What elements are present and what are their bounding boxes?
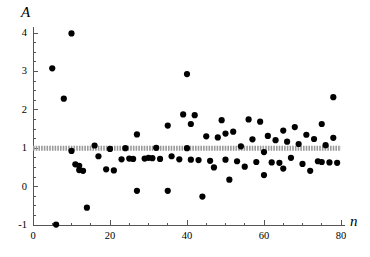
- data-point: [292, 124, 298, 130]
- y-tick-label: 4: [0, 28, 27, 39]
- data-point: [180, 111, 186, 117]
- data-point: [192, 112, 198, 118]
- data-point: [323, 142, 329, 148]
- data-point: [238, 143, 244, 149]
- data-point: [118, 156, 124, 162]
- data-point: [68, 30, 74, 36]
- data-point: [111, 167, 117, 173]
- data-point: [242, 164, 248, 170]
- data-point: [230, 129, 236, 135]
- data-point: [153, 145, 159, 151]
- y-axis-label: A: [21, 5, 30, 20]
- data-point: [165, 122, 171, 128]
- data-point: [53, 222, 59, 228]
- y-tick-label: 3: [0, 66, 27, 77]
- data-point: [265, 133, 271, 139]
- data-point: [326, 159, 332, 165]
- data-point: [149, 155, 155, 161]
- data-point: [319, 159, 325, 165]
- data-point: [157, 156, 163, 162]
- y-tick-label: 2: [0, 105, 27, 116]
- data-point: [276, 160, 282, 166]
- data-points: [49, 30, 340, 227]
- x-tick-label: 20: [96, 231, 124, 242]
- data-point: [68, 148, 74, 154]
- data-point: [249, 136, 255, 142]
- data-point: [272, 137, 278, 143]
- data-point: [207, 158, 213, 164]
- data-point: [234, 158, 240, 164]
- data-point: [288, 155, 294, 161]
- data-point: [84, 205, 90, 211]
- data-point: [303, 132, 309, 138]
- y-tick-label: -1: [0, 220, 27, 231]
- x-tick-label: 60: [250, 231, 278, 242]
- data-point: [330, 135, 336, 141]
- data-point: [219, 117, 225, 123]
- data-point: [215, 134, 221, 140]
- data-point: [280, 165, 286, 171]
- data-point: [226, 177, 232, 183]
- data-point: [169, 153, 175, 159]
- data-point: [103, 166, 109, 172]
- y-tick-label: 0: [0, 182, 27, 193]
- data-point: [299, 161, 305, 167]
- data-point: [319, 121, 325, 127]
- data-point: [203, 133, 209, 139]
- data-point: [130, 156, 136, 162]
- data-point: [92, 142, 98, 148]
- y-tick-label: 1: [0, 143, 27, 154]
- data-point: [184, 71, 190, 77]
- data-point: [107, 146, 113, 152]
- data-point: [134, 188, 140, 194]
- data-point: [199, 193, 205, 199]
- data-point: [211, 164, 217, 170]
- data-point: [188, 121, 194, 127]
- x-tick-label: 40: [173, 231, 201, 242]
- data-point: [253, 159, 259, 165]
- data-point: [80, 168, 86, 174]
- data-point: [334, 160, 340, 166]
- plot-canvas: [0, 0, 370, 257]
- x-tick-label: 0: [19, 231, 47, 242]
- data-point: [49, 65, 55, 71]
- data-point: [95, 153, 101, 159]
- data-point: [330, 94, 336, 100]
- data-point: [257, 119, 263, 125]
- data-point: [307, 168, 313, 174]
- data-point: [261, 172, 267, 178]
- data-point: [61, 96, 67, 102]
- data-point: [184, 145, 190, 151]
- data-point: [134, 131, 140, 137]
- data-point: [280, 127, 286, 133]
- scatter-plot-figure: A n 020406080-101234: [0, 0, 370, 257]
- data-point: [269, 159, 275, 165]
- data-point: [165, 188, 171, 194]
- data-point: [284, 139, 290, 145]
- data-point: [222, 131, 228, 137]
- data-point: [261, 149, 267, 155]
- data-point: [188, 157, 194, 163]
- data-point: [195, 157, 201, 163]
- data-point: [222, 157, 228, 163]
- data-point: [311, 136, 317, 142]
- data-point: [122, 145, 128, 151]
- x-tick-label: 80: [327, 231, 355, 242]
- data-point: [246, 116, 252, 122]
- data-point: [176, 156, 182, 162]
- data-point: [296, 141, 302, 147]
- x-axis-label: n: [350, 214, 358, 229]
